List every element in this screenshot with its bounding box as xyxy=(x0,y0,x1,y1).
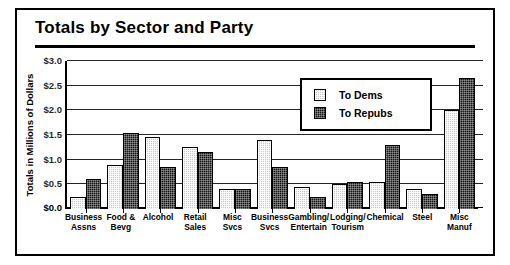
x-axis-label-line: Misc xyxy=(441,212,478,222)
bar-dems[interactable] xyxy=(332,184,348,209)
bar-group xyxy=(67,61,104,209)
y-tick-mark xyxy=(478,60,483,61)
x-axis-label: Alcohol xyxy=(139,212,176,232)
bar-dems[interactable] xyxy=(444,110,460,209)
bar-group xyxy=(142,61,179,209)
y-tick-label: $2.0 xyxy=(44,104,63,115)
bar-repubs[interactable] xyxy=(347,182,363,209)
bar-group xyxy=(216,61,253,209)
x-axis-label-line: Misc Svcs xyxy=(214,212,251,232)
bar-group xyxy=(179,61,216,209)
bar-dems[interactable] xyxy=(406,189,422,209)
chart-title: Totals by Sector and Party xyxy=(35,18,253,38)
x-axis-label: BusinessAssns xyxy=(65,212,102,232)
x-axis-label: Lodging/Tourism xyxy=(329,212,366,232)
bar-dems[interactable] xyxy=(70,197,86,209)
x-axis-label-line: Alcohol xyxy=(139,212,176,222)
x-axis-label-line: Bevg xyxy=(102,222,139,232)
y-tick-mark xyxy=(478,134,483,135)
legend-item-dems: To Dems xyxy=(302,86,430,104)
y-tick-mark xyxy=(478,85,483,86)
bar-dems[interactable] xyxy=(182,147,198,209)
chart-figure: Totals by Sector and Party Totals in Mil… xyxy=(15,8,495,256)
x-axis-label-line: Retail xyxy=(177,212,214,222)
x-axis-label: Chemical xyxy=(366,212,403,232)
title-divider xyxy=(35,45,475,48)
y-tick-label: $0.5 xyxy=(44,178,63,189)
y-tick-label: $2.5 xyxy=(44,79,63,90)
x-axis-label-line: Food & xyxy=(102,212,139,222)
x-axis-label-line: Manuf xyxy=(441,222,478,232)
bar-repubs[interactable] xyxy=(198,152,214,209)
bar-repubs[interactable] xyxy=(123,133,139,209)
y-tick-mark xyxy=(478,183,483,184)
bar-dems[interactable] xyxy=(369,182,385,209)
bar-repubs[interactable] xyxy=(385,145,401,209)
x-axis-label-line: Sales xyxy=(177,222,214,232)
y-axis-title: Totals in Millions of Dollars xyxy=(23,61,36,209)
y-tick-label: $0.0 xyxy=(44,202,63,213)
bar-group xyxy=(441,61,478,209)
x-axis-label-line: Entertain xyxy=(288,222,329,232)
y-tick-label: $1.0 xyxy=(44,153,63,164)
x-axis-label-line: Assns xyxy=(65,222,102,232)
bar-repubs[interactable] xyxy=(272,167,288,209)
bar-group xyxy=(254,61,291,209)
x-axis-label-line: Business xyxy=(251,212,288,222)
x-axis-label-line: Business xyxy=(65,212,102,222)
x-axis-label-line: Steel xyxy=(404,212,441,222)
bar-dems[interactable] xyxy=(219,189,235,209)
x-axis-label: RetailSales xyxy=(177,212,214,232)
y-tick-mark xyxy=(478,207,483,208)
x-axis-labels: BusinessAssnsFood &BevgAlcoholRetailSale… xyxy=(65,212,478,232)
legend-label-repubs: To Repubs xyxy=(339,107,392,119)
chart-legend: To Dems To Repubs xyxy=(300,78,432,131)
x-axis-label: Food &Bevg xyxy=(102,212,139,232)
legend-swatch-repubs xyxy=(314,107,326,119)
x-axis-label-line: Svcs xyxy=(251,222,288,232)
x-axis-label: BusinessSvcs xyxy=(251,212,288,232)
x-axis-label-line: Tourism xyxy=(329,222,366,232)
bar-dems[interactable] xyxy=(257,140,273,209)
bar-repubs[interactable] xyxy=(422,194,438,209)
legend-item-repubs: To Repubs xyxy=(302,104,430,122)
bar-repubs[interactable] xyxy=(459,78,475,209)
legend-swatch-dems xyxy=(314,89,326,101)
bar-dems[interactable] xyxy=(145,137,161,209)
bar-group xyxy=(104,61,141,209)
y-tick-label: $3.0 xyxy=(44,55,63,66)
x-axis-label: Misc Svcs xyxy=(214,212,251,232)
x-axis-label: MiscManuf xyxy=(441,212,478,232)
x-axis-label-line: Chemical xyxy=(366,212,403,222)
bar-repubs[interactable] xyxy=(310,197,326,209)
y-tick-mark xyxy=(478,159,483,160)
y-tick-label: $1.5 xyxy=(44,129,63,140)
x-axis-label-line: Gambling/ xyxy=(288,212,329,222)
y-tick-mark xyxy=(478,109,483,110)
bar-dems[interactable] xyxy=(294,187,310,209)
x-axis-label: Steel xyxy=(404,212,441,232)
bar-repubs[interactable] xyxy=(235,189,251,209)
legend-label-dems: To Dems xyxy=(339,89,383,101)
x-axis-label: Gambling/Entertain xyxy=(288,212,329,232)
bar-repubs[interactable] xyxy=(160,167,176,209)
x-axis-label-line: Lodging/ xyxy=(329,212,366,222)
bar-dems[interactable] xyxy=(107,165,123,209)
bar-repubs[interactable] xyxy=(86,179,102,209)
